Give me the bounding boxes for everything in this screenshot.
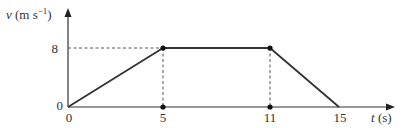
x-tick-15: 15 [334,110,347,125]
x-axis-label: t (s) [371,110,392,125]
velocity-line [68,48,339,107]
point-11-0 [267,104,272,109]
x-tick-5: 5 [160,110,167,125]
y-axis-label: v (m s−1) [6,6,52,22]
point-5-0 [160,104,165,109]
y-axis-arrow-icon [65,8,72,17]
velocity-time-chart: v (m s−1) 8 0 0 5 11 15 t (s) [0,0,403,128]
point-11-8 [267,45,272,50]
point-5-8 [160,45,165,50]
x-tick-11: 11 [264,110,277,125]
y-tick-0: 0 [57,98,64,113]
x-tick-0: 0 [66,110,73,125]
y-tick-8: 8 [52,41,59,56]
